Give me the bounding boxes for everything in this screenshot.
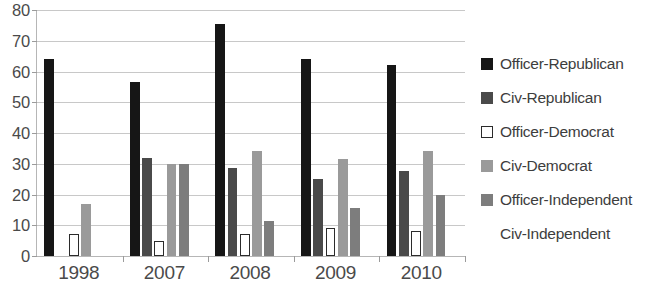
x-axis-category-labels: 19982007200820092010	[36, 262, 464, 298]
bar[interactable]	[313, 179, 323, 256]
legend-label: Civ-Republican	[500, 89, 602, 107]
legend-item[interactable]: Officer-Democrat	[481, 115, 657, 149]
bar[interactable]	[399, 171, 409, 256]
bar[interactable]	[338, 159, 348, 256]
bar-group	[379, 10, 465, 256]
x-axis-label: 2010	[401, 262, 442, 284]
bar[interactable]	[215, 24, 225, 256]
y-tick-label: 80	[12, 1, 30, 20]
y-axis-tick	[32, 256, 37, 257]
x-axis-tick	[465, 256, 466, 262]
legend-label: Officer-Independent	[500, 191, 632, 209]
legend-item[interactable]: Civ-Democrat	[481, 149, 657, 183]
bar[interactable]	[326, 228, 336, 256]
legend-swatch-icon	[481, 160, 493, 172]
bar-group	[208, 10, 294, 256]
bar[interactable]	[240, 234, 250, 256]
x-axis-label: 2008	[229, 262, 270, 284]
legend-swatch-icon	[481, 92, 493, 104]
bar-group	[37, 10, 123, 256]
y-axis-tick-labels: 01020304050607080	[0, 0, 30, 299]
y-tick-label: 70	[12, 31, 30, 50]
bar[interactable]	[387, 65, 397, 256]
legend-swatch-icon	[481, 58, 493, 70]
legend-swatch-icon	[481, 126, 493, 138]
plot-area	[36, 10, 465, 257]
bar-group	[294, 10, 380, 256]
bar[interactable]	[411, 231, 421, 256]
legend-item[interactable]: Officer-Independent	[481, 183, 657, 217]
legend-swatch-icon	[481, 194, 493, 206]
bar[interactable]	[301, 59, 311, 256]
bar[interactable]	[44, 59, 54, 256]
bar[interactable]	[252, 151, 262, 256]
bar[interactable]	[130, 82, 140, 256]
bar[interactable]	[154, 241, 164, 256]
x-axis-label: 2009	[315, 262, 356, 284]
y-tick-label: 50	[12, 93, 30, 112]
y-tick-label: 30	[12, 154, 30, 173]
bar-chart: 01020304050607080 19982007200820092010 O…	[0, 0, 657, 299]
legend-label: Civ-Democrat	[500, 157, 592, 175]
legend-item[interactable]: Officer-Republican	[481, 47, 657, 81]
bar[interactable]	[228, 168, 238, 256]
bar[interactable]	[167, 164, 177, 256]
legend-item[interactable]: Civ-Independent	[481, 217, 657, 251]
y-tick-label: 60	[12, 62, 30, 81]
x-axis-label: 1998	[58, 262, 99, 284]
bar[interactable]	[264, 221, 274, 256]
bar[interactable]	[436, 195, 446, 257]
bar[interactable]	[423, 151, 433, 256]
x-axis-label: 2007	[144, 262, 185, 284]
legend-label: Officer-Republican	[500, 55, 624, 73]
legend-item[interactable]: Civ-Republican	[481, 81, 657, 115]
y-tick-label: 40	[12, 124, 30, 143]
bar[interactable]	[69, 234, 79, 256]
y-tick-label: 0	[21, 247, 30, 266]
legend-label: Officer-Democrat	[500, 123, 614, 141]
bar-group	[123, 10, 209, 256]
bar[interactable]	[179, 164, 189, 256]
legend-swatch-icon	[481, 228, 493, 240]
bar[interactable]	[142, 158, 152, 256]
legend-label: Civ-Independent	[500, 225, 610, 243]
bar[interactable]	[350, 208, 360, 256]
chart-legend: Officer-RepublicanCiv-RepublicanOfficer-…	[481, 47, 657, 251]
plot-wrapper: 01020304050607080 19982007200820092010	[0, 0, 470, 299]
y-tick-label: 20	[12, 185, 30, 204]
y-tick-label: 10	[12, 216, 30, 235]
bar[interactable]	[81, 204, 91, 256]
